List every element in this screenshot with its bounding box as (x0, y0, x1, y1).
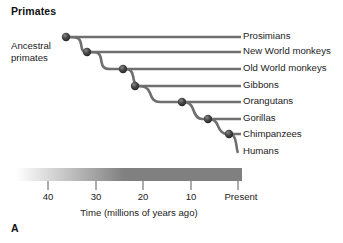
node-orangutans (178, 98, 186, 106)
taxon-label-gibbons: Gibbons (243, 80, 279, 90)
taxon-label-new-world-monkeys: New World monkeys (243, 46, 331, 56)
taxon-label-chimpanzees: Chimpanzees (243, 129, 302, 139)
branch-to-new-world-monkeys (66, 37, 241, 52)
root-label: Ancestral primates (11, 40, 51, 63)
branch-to-chimpanzees (208, 119, 241, 134)
node-old-world-monkeys (119, 65, 127, 73)
axis-title-time: Time (millions of years ago) (0, 207, 278, 218)
branch-to-gorillas (182, 102, 241, 119)
branch-to-old-world-monkeys (87, 52, 241, 69)
axis-tick-marks (48, 181, 238, 190)
node-gibbons (131, 82, 139, 90)
node-prosimians (62, 33, 70, 41)
taxon-label-humans: Humans (243, 146, 279, 156)
tick-label-20: 20 (138, 191, 149, 202)
branch-to-gibbons (123, 69, 241, 86)
root-label-line2: primates (11, 52, 51, 64)
node-gorillas (204, 115, 212, 123)
tick-label-30: 30 (91, 191, 102, 202)
node-new-world-monkeys (83, 48, 91, 56)
branch-to-orangutans (135, 86, 241, 102)
tick-label-10: 10 (186, 191, 197, 202)
root-label-line1: Ancestral (11, 40, 51, 52)
panel-letter: A (11, 222, 19, 234)
taxon-label-gorillas: Gorillas (243, 113, 276, 123)
taxon-label-prosimians: Prosimians (243, 31, 290, 41)
tick-label-40: 40 (43, 191, 54, 202)
taxon-label-old-world-monkeys: Old World monkeys (243, 63, 327, 73)
taxon-label-orangutans: Orangutans (243, 96, 293, 106)
tick-label-present: Present (224, 191, 257, 202)
primate-phylogeny-figure: Primates (0, 0, 343, 243)
phylogenetic-tree (0, 0, 343, 170)
node-chimps-humans (225, 130, 233, 138)
